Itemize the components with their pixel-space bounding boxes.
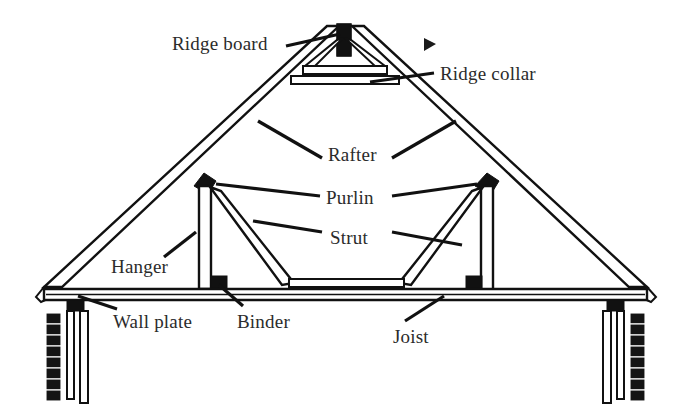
leader-purlin-left [216, 184, 320, 196]
wall-plate-right [607, 300, 624, 311]
leader-purlin-right [392, 184, 477, 196]
wall-right [603, 311, 645, 403]
ridge-collar [303, 66, 387, 74]
label-hanger: Hanger [111, 257, 168, 276]
label-strut: Strut [330, 228, 368, 247]
hanger-right [481, 186, 493, 297]
leader-strut-left [253, 221, 322, 232]
rafter-left [44, 26, 339, 287]
leader-rafter-right [392, 121, 456, 158]
strut-left [210, 187, 294, 285]
leader-rafter-left [258, 121, 322, 158]
wall-right-brick-hatch [630, 313, 645, 401]
cursor-arrow-icon [424, 38, 436, 51]
joist [44, 289, 647, 300]
label-wall-plate: Wall plate [113, 312, 192, 331]
label-ridge-collar: Ridge collar [440, 64, 536, 83]
label-binder: Binder [237, 312, 290, 331]
binder-bearing-right [466, 276, 482, 289]
wall-left [46, 311, 88, 403]
hanger-left [199, 186, 211, 289]
wall-left-brick-hatch [46, 313, 61, 401]
label-rafter: Rafter [328, 145, 377, 164]
roof-truss-diagram: Ridge board Ridge collar Rafter Purlin S… [0, 0, 691, 409]
leader-hanger [164, 232, 196, 257]
binder [289, 279, 404, 287]
label-ridge-board: Ridge board [172, 34, 268, 53]
label-joist: Joist [393, 327, 429, 346]
label-purlin: Purlin [326, 188, 374, 207]
wall-plate-left [67, 300, 84, 311]
leader-strut-right [392, 232, 462, 245]
